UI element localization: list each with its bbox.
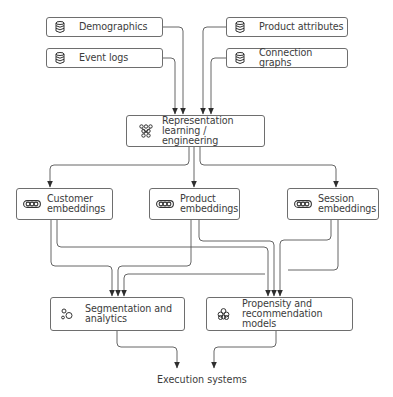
database-icon <box>234 21 246 33</box>
edge-eventlogs-core <box>163 58 175 114</box>
clusters-icon <box>61 308 73 320</box>
node-label: Representation learning / engineering <box>162 116 264 146</box>
edge-productattr-core <box>203 27 226 114</box>
node-label: Product embeddings <box>180 194 238 214</box>
edge-customer-segmentation <box>51 220 112 296</box>
node-segmentation: Segmentation and analytics <box>50 297 185 331</box>
node-demographics: Demographics <box>46 17 163 37</box>
edge-session-segmentation <box>124 274 265 296</box>
node-label: Product attributes <box>259 22 344 32</box>
node-representation: Representation learning / engineering <box>126 115 265 147</box>
terminal-execution-systems: Execution systems <box>157 374 247 385</box>
node-product-attributes: Product attributes <box>226 17 348 37</box>
database-icon <box>234 52 246 64</box>
edge-product-propensity <box>199 220 274 296</box>
edge-customer-propensity <box>57 220 268 296</box>
node-connection-graphs: Connection graphs <box>226 48 348 68</box>
database-icon <box>54 21 66 33</box>
embedding-vector-icon <box>23 200 41 208</box>
node-product-embeddings: Product embeddings <box>149 188 240 220</box>
edge-segmentation-execution <box>117 331 177 368</box>
model-stack-icon <box>217 308 230 320</box>
edge-demographics-core <box>163 27 183 114</box>
diagram-canvas: Demographics Event logs Product attribut… <box>0 0 393 397</box>
node-event-logs: Event logs <box>46 48 163 68</box>
edge-product-segmentation <box>118 220 191 296</box>
edge-core-customer <box>50 147 189 187</box>
edge-propensity-execution <box>214 331 276 368</box>
node-session-embeddings: Session embeddings <box>287 188 379 220</box>
node-label: Session embeddings <box>318 194 376 214</box>
embedding-vector-icon <box>294 200 312 208</box>
node-label: Demographics <box>79 22 147 32</box>
node-customer-embeddings: Customer embeddings <box>16 188 113 220</box>
node-label: Connection graphs <box>259 48 347 68</box>
network-icon <box>139 124 153 138</box>
node-label: Segmentation and analytics <box>85 304 172 324</box>
edge-session-propensity-2 <box>288 220 338 270</box>
node-label: Event logs <box>79 53 128 63</box>
node-propensity: Propensity and recommendation models <box>206 297 353 331</box>
edge-core-session <box>200 147 336 187</box>
database-icon <box>54 52 66 64</box>
node-label: Customer embeddings <box>47 194 105 214</box>
edge-connection-core <box>211 58 226 114</box>
edge-session-propensity <box>280 220 331 296</box>
node-label: Propensity and recommendation models <box>242 299 352 329</box>
embedding-vector-icon <box>156 200 174 208</box>
